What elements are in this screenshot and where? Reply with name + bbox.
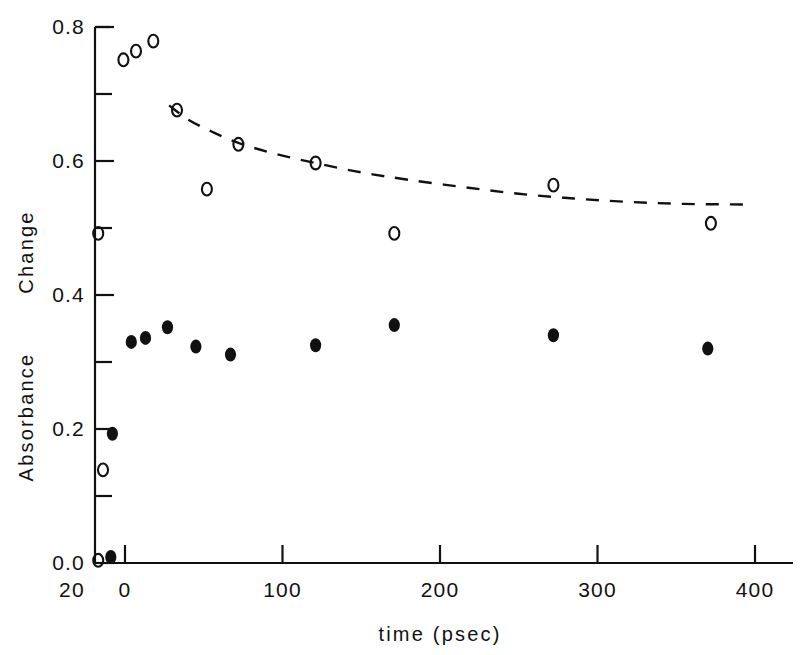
filled-circle-point-2: [126, 335, 137, 349]
axes-group: [95, 27, 793, 563]
x-axis-title: time (psec): [378, 623, 501, 645]
filled-circle-point-0: [105, 550, 116, 564]
dashed-fit-curve: [169, 105, 747, 204]
filled-circle-point-9: [548, 328, 559, 342]
open-circle-point-5: [148, 35, 158, 48]
x-axis-ticks: [125, 545, 755, 563]
filled-circle-point-3: [140, 331, 151, 345]
filled-circle-point-1: [107, 427, 118, 441]
y-tick-label-0.0: 0.0: [52, 551, 85, 574]
x-tick-label-100: 100: [263, 578, 302, 601]
figure-container: 0.00.20.40.60.8 0100200300400 20 time (p…: [0, 0, 806, 655]
x-tick-label-400: 400: [736, 578, 775, 601]
x-tick-label-300: 300: [578, 578, 617, 601]
y-axis-title-change: Change: [15, 210, 37, 293]
x-tick-label-200: 200: [421, 578, 460, 601]
open-circle-point-4: [131, 45, 141, 58]
open-circle-point-12: [706, 217, 716, 230]
filled-circle-point-8: [389, 318, 400, 332]
y-tick-label-0.6: 0.6: [52, 149, 85, 172]
y-tick-label-0.2: 0.2: [52, 417, 85, 440]
open-circle-point-7: [202, 183, 212, 196]
y-axis-tick-labels: 0.00.20.40.60.8: [52, 15, 85, 574]
x-axis-minus-twenty-label: 20: [59, 578, 85, 601]
open-circle-point-3: [118, 53, 128, 66]
filled-circle-point-5: [190, 340, 201, 354]
y-tick-label-0.8: 0.8: [52, 15, 85, 38]
open-circle-data-series: [93, 35, 716, 567]
absorbance-change-vs-time-scatter-plot: 0.00.20.40.60.8 0100200300400 20 time (p…: [0, 0, 806, 655]
open-circle-point-1: [98, 464, 108, 477]
filled-circle-point-7: [310, 338, 321, 352]
y-tick-label-0.4: 0.4: [52, 283, 85, 306]
x-tick-label-0: 0: [119, 578, 132, 601]
filled-circle-data-series: [105, 318, 713, 564]
filled-circle-point-10: [702, 342, 713, 356]
x-axis-tick-labels: 0100200300400: [119, 578, 775, 601]
filled-circle-point-6: [225, 348, 236, 362]
open-circle-point-11: [548, 179, 558, 192]
y-axis-title-absorbance: Absorbance: [15, 353, 37, 482]
y-axis-ticks: [95, 27, 114, 563]
filled-circle-point-4: [162, 320, 173, 334]
open-circle-point-10: [389, 227, 399, 240]
